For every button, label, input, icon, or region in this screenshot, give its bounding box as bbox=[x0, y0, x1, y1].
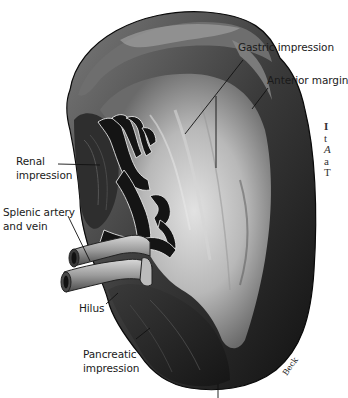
cropped-caption-text: I t A a T bbox=[324, 121, 331, 179]
label-splenic-vessels-line2: and vein bbox=[3, 220, 48, 233]
caption-fragment: T bbox=[324, 167, 331, 179]
label-renal-impression-line1: Renal bbox=[16, 155, 45, 168]
label-hilus: Hilus bbox=[79, 302, 104, 315]
label-anterior-margin: Anterior margin bbox=[267, 74, 348, 87]
caption-fragment: A bbox=[324, 144, 331, 156]
caption-fragment: I bbox=[324, 121, 331, 133]
label-splenic-vessels-line1: Splenic artery bbox=[3, 206, 75, 219]
label-pancreatic-impression-line1: Pancreatic bbox=[83, 348, 137, 361]
label-renal-impression-line2: impression bbox=[16, 169, 72, 182]
label-gastric-impression: Gastric impression bbox=[238, 41, 334, 54]
label-pancreatic-impression-line2: impression bbox=[83, 362, 139, 375]
